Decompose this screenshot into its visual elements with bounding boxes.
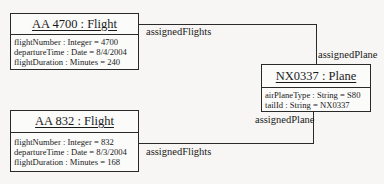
object-title-text: NX0337 : Plane	[276, 69, 357, 84]
object-title: AA 832 : Flight	[11, 111, 138, 133]
attribute: flightDuration : Minutes = 168	[14, 157, 135, 167]
object-flight-aa832[interactable]: AA 832 : Flight flightNumber : Integer =…	[10, 110, 139, 172]
link-line	[316, 24, 317, 64]
attribute-list: flightNumber : Integer = 832 departureTi…	[11, 133, 138, 169]
link-line	[139, 143, 314, 144]
attribute: tailId : String = NX0337	[265, 100, 367, 110]
role-label-assigned-flights: assignedFlights	[146, 26, 211, 37]
object-title: AA 4700 : Flight	[11, 14, 138, 35]
attribute: flightNumber : Integer = 832	[14, 137, 135, 147]
role-label-assigned-plane: assignedPlane	[255, 114, 315, 125]
object-title-text: AA 832 : Flight	[35, 114, 114, 129]
attribute-list: flightNumber : Integer = 4700 departureT…	[11, 35, 138, 69]
attribute: departureTime : Date = 8/3/2004	[14, 147, 135, 157]
attribute: flightNumber : Integer = 4700	[14, 37, 135, 47]
attribute: airPlaneType : String = S80	[265, 90, 367, 100]
object-title: NX0337 : Plane	[262, 65, 370, 88]
role-label-assigned-plane: assignedPlane	[318, 49, 378, 60]
attribute: departureTime : Date = 8/4/2004	[14, 47, 135, 57]
link-line	[139, 24, 317, 25]
attribute: flightDuration : Minutes = 240	[14, 57, 135, 67]
attribute-list: airPlaneType : String = S80 tailId : Str…	[262, 88, 370, 112]
role-label-assigned-flights: assignedFlights	[146, 146, 211, 157]
object-flight-aa4700[interactable]: AA 4700 : Flight flightNumber : Integer …	[10, 13, 139, 70]
object-plane-nx0337[interactable]: NX0337 : Plane airPlaneType : String = S…	[261, 64, 371, 112]
object-title-text: AA 4700 : Flight	[32, 17, 117, 32]
